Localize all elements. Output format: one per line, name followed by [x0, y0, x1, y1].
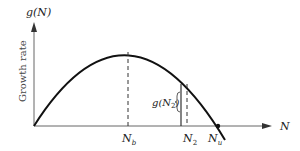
marker-nu: Nu [207, 132, 223, 147]
y-axis-arrow-icon [31, 22, 37, 32]
marker-nb: Nb [121, 132, 137, 147]
growth-curve [34, 55, 225, 140]
g-n2-label: g(N2) [152, 97, 180, 110]
growth-rate-diagram: g(N) Growth rate N Nb N2 Nu g(N2) [0, 0, 300, 151]
nu-point [216, 124, 220, 128]
y-axis-label: g(N) [26, 6, 51, 19]
x-axis-arrow-icon [262, 123, 272, 129]
x-axis-label: N [279, 120, 290, 133]
marker-n2: N2 [182, 132, 197, 147]
y-axis-title: Growth rate [17, 40, 28, 102]
